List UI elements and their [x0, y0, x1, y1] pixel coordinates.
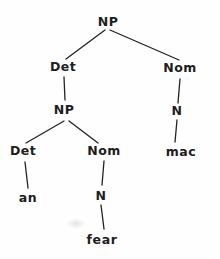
- edge-det-upper-np-inner: [64, 77, 65, 100]
- edge-n-right-mac: [175, 120, 177, 142]
- node-det-lower: Det: [10, 145, 36, 158]
- node-terminal-fear: fear: [87, 234, 118, 247]
- syntax-tree-diagram: NP Det Nom NP N mac Det Nom an N fear: [0, 0, 220, 259]
- node-n-right: N: [172, 105, 183, 118]
- node-terminal-an: an: [19, 192, 38, 205]
- node-np-inner: NP: [54, 104, 74, 117]
- node-nom-right: Nom: [163, 62, 196, 75]
- edge-det-lower-an: [25, 162, 28, 188]
- node-det-upper: Det: [50, 61, 76, 74]
- scan-smudge-artifact: [66, 218, 86, 229]
- edge-np-root-det-upper: [66, 30, 105, 59]
- edge-np-inner-nom-lower: [69, 121, 98, 143]
- node-nom-lower: Nom: [87, 145, 120, 158]
- node-np-root: NP: [98, 16, 118, 29]
- edge-nom-lower-n-lower: [102, 161, 104, 185]
- node-terminal-mac: mac: [166, 146, 197, 159]
- edge-np-inner-det-lower: [26, 121, 64, 143]
- tree-edges: [0, 0, 220, 259]
- edge-np-root-nom-right: [110, 30, 179, 60]
- node-n-lower: N: [96, 190, 107, 203]
- edge-nom-right-n-right: [178, 79, 180, 103]
- edge-n-lower-fear: [101, 205, 104, 229]
